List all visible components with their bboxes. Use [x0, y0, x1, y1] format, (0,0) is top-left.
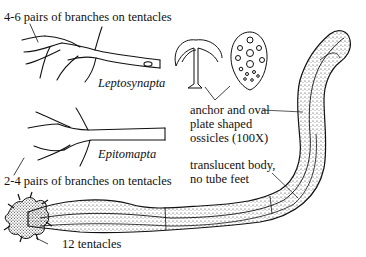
- sea-cucumber-diagram: 4-6 pairs of branches on tentacles Lepto…: [0, 0, 366, 257]
- leptosynapta-tentacle-label: 4-6 pairs of branches on tentacles: [4, 10, 172, 24]
- leptosynapta-name-label: Leptosynapta: [98, 76, 165, 90]
- epitomapta-tentacle-drawing: [14, 108, 165, 175]
- tentacle-count-label: 12 tentacles: [62, 237, 121, 251]
- epitomapta-name-label: Epitomapta: [98, 147, 156, 161]
- anchor-ossicle-drawing: [175, 40, 222, 88]
- illustration: [0, 0, 366, 257]
- body-label-line2: no tube feet: [190, 172, 249, 186]
- body-label-line1: translucent body,: [190, 158, 275, 172]
- tentacle-crown-drawing: [4, 192, 52, 244]
- ossicles-label-line1: anchor and oval: [190, 103, 270, 117]
- oval-plate-ossicle-drawing: [205, 32, 267, 100]
- leptosynapta-tentacle-drawing: [22, 24, 160, 82]
- epitomapta-tentacle-label: 2-4 pairs of branches on tentacles: [4, 174, 172, 188]
- ossicles-label-line2: plate shaped: [190, 117, 252, 131]
- ossicles-label-line3: ossicles (100X): [190, 131, 268, 145]
